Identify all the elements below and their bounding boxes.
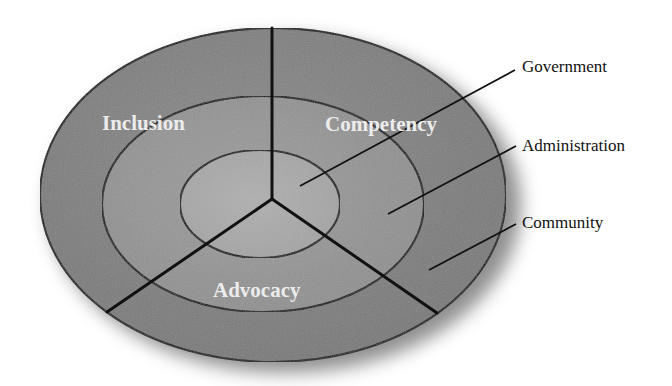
inner-core-government (180, 150, 340, 258)
ring-label-government: Government (522, 57, 607, 76)
sector-label-inclusion: Inclusion (102, 111, 185, 135)
concentric-diagram: Inclusion Competency Advocacy Government… (0, 0, 672, 386)
ring-label-community: Community (522, 213, 604, 232)
sector-label-competency: Competency (325, 112, 437, 136)
ring-label-administration: Administration (522, 136, 625, 155)
sector-label-advocacy: Advocacy (213, 278, 301, 302)
